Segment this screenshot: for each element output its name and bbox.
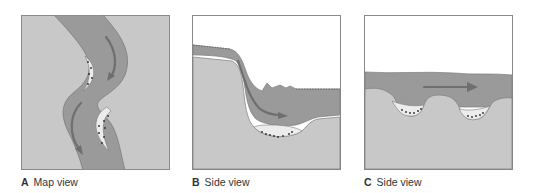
caption-panel-a: AMap view <box>21 176 78 188</box>
caption-panel-b: BSide view <box>192 176 250 188</box>
channel-bed-side-view-illustration <box>364 15 513 170</box>
panel-map-view <box>21 15 170 170</box>
panel-letter: A <box>21 176 29 188</box>
caption-panel-c: CSide view <box>364 176 422 188</box>
panel-side-view-channel-bed <box>364 15 513 170</box>
panel-letter: B <box>192 176 200 188</box>
panel-caption: Side view <box>205 176 250 188</box>
meandering-river-map-illustration <box>21 15 170 170</box>
panel-caption: Map view <box>34 176 78 188</box>
panel-caption: Side view <box>377 176 422 188</box>
panel-letter: C <box>364 176 372 188</box>
waterfall-side-view-illustration <box>192 15 341 170</box>
panel-side-view-waterfall <box>192 15 341 170</box>
